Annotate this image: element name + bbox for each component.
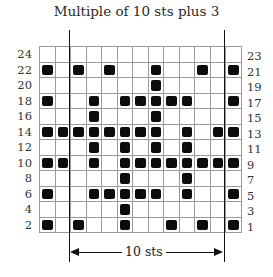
filled-stitch-cell <box>118 156 134 172</box>
empty-stitch-cell <box>87 202 103 218</box>
empty-stitch-cell <box>180 47 196 63</box>
empty-stitch-cell <box>195 47 211 63</box>
filled-stitch-cell <box>133 156 149 172</box>
empty-stitch-cell <box>164 187 180 203</box>
empty-stitch-cell <box>118 109 134 125</box>
empty-stitch-cell <box>71 171 87 187</box>
empty-stitch-cell <box>133 63 149 79</box>
empty-stitch-cell <box>226 140 242 156</box>
filled-stitch-cell <box>180 171 196 187</box>
filled-stitch-cell <box>133 187 149 203</box>
filled-stitch-cell <box>118 187 134 203</box>
empty-stitch-cell <box>87 171 103 187</box>
filled-stitch-cell <box>133 125 149 141</box>
filled-stitch-cell <box>180 187 196 203</box>
row-label: 18 <box>10 94 32 110</box>
empty-stitch-cell <box>180 63 196 79</box>
empty-stitch-cell <box>133 202 149 218</box>
filled-stitch-cell <box>226 125 242 141</box>
empty-stitch-cell <box>40 202 56 218</box>
empty-stitch-cell <box>195 125 211 141</box>
filled-stitch-cell <box>226 63 242 79</box>
empty-stitch-cell <box>71 156 87 172</box>
empty-stitch-cell <box>102 140 118 156</box>
empty-stitch-cell <box>164 202 180 218</box>
empty-stitch-cell <box>71 202 87 218</box>
empty-stitch-cell <box>71 78 87 94</box>
filled-stitch-cell <box>87 187 103 203</box>
empty-stitch-cell <box>133 47 149 63</box>
empty-stitch-cell <box>226 109 242 125</box>
empty-stitch-cell <box>164 47 180 63</box>
empty-stitch-cell <box>149 47 165 63</box>
filled-stitch-cell <box>102 187 118 203</box>
row-label: 11 <box>247 142 269 158</box>
empty-stitch-cell <box>195 202 211 218</box>
row-label: 6 <box>10 187 32 203</box>
row-label: 3 <box>247 204 269 220</box>
row-label: 4 <box>10 202 32 218</box>
row-label: 14 <box>10 125 32 141</box>
empty-stitch-cell <box>87 47 103 63</box>
filled-stitch-cell <box>149 187 165 203</box>
empty-stitch-cell <box>164 63 180 79</box>
empty-stitch-cell <box>71 140 87 156</box>
row-label: 16 <box>10 109 32 125</box>
row-label: 5 <box>247 189 269 205</box>
filled-stitch-cell <box>118 202 134 218</box>
row-label: 1 <box>247 220 269 236</box>
row-label: 22 <box>10 63 32 79</box>
empty-stitch-cell <box>226 47 242 63</box>
filled-stitch-cell <box>180 140 196 156</box>
empty-stitch-cell <box>195 109 211 125</box>
empty-stitch-cell <box>71 187 87 203</box>
row-label: 8 <box>10 171 32 187</box>
empty-stitch-cell <box>226 171 242 187</box>
row-label: 17 <box>247 96 269 112</box>
empty-stitch-cell <box>195 94 211 110</box>
empty-stitch-cell <box>226 78 242 94</box>
filled-stitch-cell <box>149 109 165 125</box>
filled-stitch-cell <box>149 125 165 141</box>
empty-stitch-cell <box>71 94 87 110</box>
filled-stitch-cell <box>149 94 165 110</box>
arrow-right-icon <box>214 248 223 256</box>
empty-stitch-cell <box>71 47 87 63</box>
filled-stitch-cell <box>87 109 103 125</box>
empty-stitch-cell <box>133 171 149 187</box>
repeat-end-line <box>224 30 225 262</box>
filled-stitch-cell <box>118 140 134 156</box>
filled-stitch-cell <box>180 156 196 172</box>
filled-stitch-cell <box>118 125 134 141</box>
empty-stitch-cell <box>164 171 180 187</box>
filled-stitch-cell <box>87 140 103 156</box>
filled-stitch-cell <box>180 94 196 110</box>
chart-title: Multiple of 10 sts plus 3 <box>0 3 273 19</box>
filled-stitch-cell <box>40 218 56 234</box>
empty-stitch-cell <box>149 171 165 187</box>
empty-stitch-cell <box>195 171 211 187</box>
filled-stitch-cell <box>226 187 242 203</box>
row-label: 9 <box>247 158 269 174</box>
filled-stitch-cell <box>149 140 165 156</box>
empty-stitch-cell <box>164 140 180 156</box>
repeat-start-line <box>69 30 70 262</box>
filled-stitch-cell <box>164 94 180 110</box>
empty-stitch-cell <box>40 78 56 94</box>
empty-stitch-cell <box>102 94 118 110</box>
empty-stitch-cell <box>133 109 149 125</box>
empty-stitch-cell <box>149 202 165 218</box>
empty-stitch-cell <box>40 140 56 156</box>
empty-stitch-cell <box>40 109 56 125</box>
filled-stitch-cell <box>149 63 165 79</box>
empty-stitch-cell <box>87 63 103 79</box>
filled-stitch-cell <box>180 125 196 141</box>
empty-stitch-cell <box>164 109 180 125</box>
empty-stitch-cell <box>164 78 180 94</box>
empty-stitch-cell <box>102 218 118 234</box>
filled-stitch-cell <box>149 156 165 172</box>
filled-stitch-cell <box>226 94 242 110</box>
empty-stitch-cell <box>180 218 196 234</box>
row-label: 13 <box>247 127 269 143</box>
empty-stitch-cell <box>102 47 118 63</box>
